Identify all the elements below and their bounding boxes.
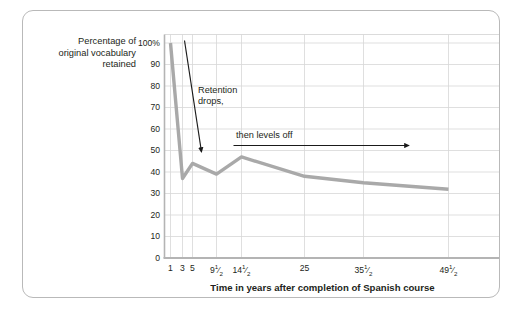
y-tick-label: 80 xyxy=(118,81,160,91)
y-tick-label: 70 xyxy=(118,102,160,112)
gridlines-group xyxy=(165,35,500,259)
x-tick-label: 491⁄2 xyxy=(426,263,472,277)
annotation-retention-drops: Retention drops, xyxy=(198,85,237,108)
y-tick-label: 10 xyxy=(118,231,160,241)
y-tick-label: 60 xyxy=(118,124,160,134)
annotation-levels-off: then levels off xyxy=(236,130,293,141)
x-tick-label: 25 xyxy=(282,263,328,273)
x-tick-label: 141⁄2 xyxy=(219,263,265,277)
y-tick-label: 90 xyxy=(118,59,160,69)
annotation-retention-line-2: drops, xyxy=(198,96,237,107)
x-axis-title: Time in years after completion of Spanis… xyxy=(150,282,495,293)
y-tick-label: 40 xyxy=(118,167,160,177)
y-tick-label: 20 xyxy=(118,210,160,220)
y-tick-label: 100% xyxy=(118,38,160,48)
figure-container: Percentage of original vocabulary retain… xyxy=(0,0,522,315)
annotation-retention-line-1: Retention xyxy=(198,85,237,96)
y-tick-label: 30 xyxy=(118,188,160,198)
data-series-retention xyxy=(171,43,449,189)
y-tick-label: 0 xyxy=(118,253,160,263)
y-tick-label: 50 xyxy=(118,145,160,155)
x-tick-label: 351⁄2 xyxy=(341,263,387,277)
